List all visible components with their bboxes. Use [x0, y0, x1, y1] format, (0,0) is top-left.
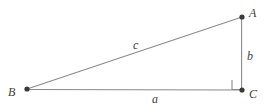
vertex-label-c: C: [249, 88, 257, 100]
side-c-line: [27, 17, 242, 89]
vertex-point-A: [239, 14, 244, 19]
right-angle-marker-icon: [232, 80, 242, 90]
vertex-label-a: A: [249, 7, 256, 19]
triangle-drawing: [0, 0, 267, 111]
vertex-label-b: B: [8, 86, 15, 98]
vertex-point-C: [239, 87, 244, 92]
side-label-c: c: [133, 39, 138, 51]
triangle-figure: A B C a b c: [0, 0, 267, 111]
side-label-a: a: [152, 93, 158, 105]
side-label-b: b: [247, 50, 253, 62]
vertex-point-B: [24, 86, 29, 91]
side-a-line: [27, 90, 242, 91]
